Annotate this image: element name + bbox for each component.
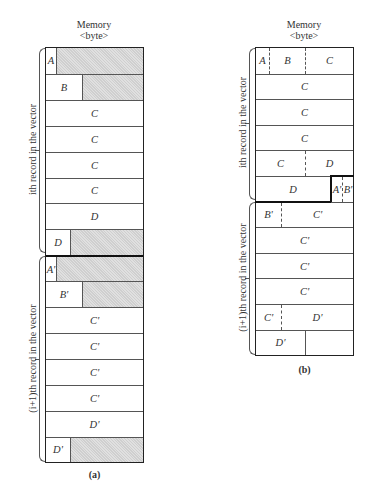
memory-row: C' xyxy=(256,253,353,279)
caption-b: (b) xyxy=(255,364,354,375)
figure-b-header: Memory <byte> xyxy=(255,19,353,41)
field-cell: A' xyxy=(330,177,342,202)
memory-row: ABC xyxy=(256,48,353,74)
field-cell: B xyxy=(46,75,82,100)
padding-bytes xyxy=(82,75,143,100)
field-cell: C xyxy=(256,100,353,125)
field-cell: B xyxy=(269,48,305,74)
memory-row: C xyxy=(256,125,353,151)
record-boundary xyxy=(330,175,354,177)
memory-row: C xyxy=(46,100,143,126)
memory-row: D xyxy=(46,203,143,229)
memory-label: Memory xyxy=(255,19,353,30)
field-cell: B' xyxy=(342,177,353,202)
padding-bytes xyxy=(56,48,143,74)
memory-layout-b: ABCCCCCDDA'B'B'C'C'C'C'C'D'D' xyxy=(255,47,354,356)
field-cell: C' xyxy=(256,228,353,253)
field-cell: B' xyxy=(46,282,82,307)
field-cell: C' xyxy=(46,386,143,411)
memory-row: C' xyxy=(46,307,143,333)
field-cell: C xyxy=(256,75,353,100)
field-cell: C' xyxy=(256,279,353,304)
memory-row: C' xyxy=(256,227,353,253)
memory-row: B xyxy=(46,74,143,100)
memory-row: CD xyxy=(256,150,353,176)
field-cell: D' xyxy=(46,438,70,463)
memory-row: C' xyxy=(46,333,143,359)
memory-row: D' xyxy=(46,437,143,463)
memory-row: D xyxy=(46,229,143,255)
field-cell: C xyxy=(305,48,353,74)
field-cell: C' xyxy=(256,305,281,330)
padding-bytes xyxy=(70,438,143,463)
field-cell: C xyxy=(256,151,305,176)
field-cell: C' xyxy=(256,254,353,279)
field-cell: D xyxy=(46,230,70,255)
field-cell: A' xyxy=(46,257,56,281)
field-cell: C' xyxy=(281,203,353,228)
memory-row: C xyxy=(46,178,143,204)
memory-layout-a: ABCCCCDDA'B'C'C'C'C'D'D' xyxy=(45,47,144,463)
field-cell: D xyxy=(256,177,330,202)
field-cell: C' xyxy=(46,360,143,385)
field-cell: D xyxy=(305,151,353,176)
memory-row: C xyxy=(256,99,353,125)
field-cell: A xyxy=(46,48,56,74)
memory-row: C xyxy=(46,126,143,152)
memory-row: C'D' xyxy=(256,304,353,330)
field-cell: D xyxy=(46,204,143,229)
padding-bytes xyxy=(70,230,143,255)
field-cell: C xyxy=(46,101,143,126)
padding-bytes xyxy=(82,282,143,307)
byte-label: <byte> xyxy=(45,30,143,41)
memory-label: Memory xyxy=(45,19,143,30)
memory-row: C xyxy=(256,74,353,100)
memory-row: A' xyxy=(46,255,143,281)
figure-a-header: Memory <byte> xyxy=(45,19,143,41)
padding-bytes xyxy=(56,257,143,281)
field-cell xyxy=(305,331,353,356)
record-i-label-a: ith record in the vector xyxy=(27,75,38,225)
memory-row: C xyxy=(46,152,143,178)
memory-row: B'C' xyxy=(256,202,353,228)
field-cell: D' xyxy=(46,412,143,437)
memory-row: B' xyxy=(46,281,143,307)
field-cell: B' xyxy=(256,203,281,228)
memory-row: C' xyxy=(46,359,143,385)
record-i1-label-b: (i+1)th record in the vector xyxy=(237,193,248,363)
field-cell: D' xyxy=(281,305,353,330)
record-i-label-b: ith record in the vector xyxy=(237,48,248,198)
byte-label: <byte> xyxy=(255,30,353,41)
field-cell: C xyxy=(46,153,143,178)
record-i1-label-a: (i+1)th record in the vector xyxy=(27,274,38,444)
memory-row: C' xyxy=(46,385,143,411)
field-cell: C xyxy=(46,179,143,204)
memory-row: DA'B' xyxy=(256,176,353,202)
caption-a: (a) xyxy=(45,469,144,480)
field-cell: A xyxy=(256,48,269,74)
field-cell: C xyxy=(256,126,353,151)
memory-row: D' xyxy=(256,330,353,356)
field-cell: C' xyxy=(46,334,143,359)
field-cell: C' xyxy=(46,308,143,333)
field-cell: C xyxy=(46,127,143,152)
record-boundary xyxy=(255,201,331,203)
memory-row: C' xyxy=(256,278,353,304)
field-cell: D' xyxy=(256,331,305,356)
memory-row: A xyxy=(46,48,143,74)
memory-row: D' xyxy=(46,411,143,437)
